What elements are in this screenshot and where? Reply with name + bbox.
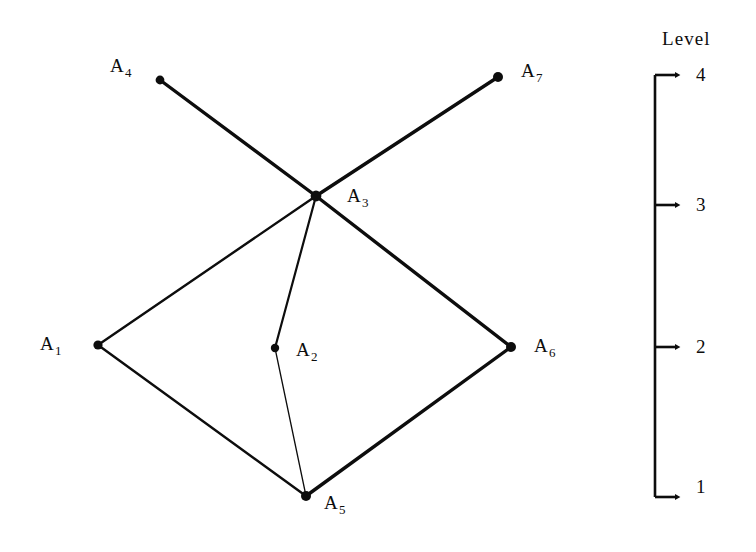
node-label-a4: A4 bbox=[110, 56, 131, 75]
graph-node-a4 bbox=[156, 76, 165, 85]
level-tick-label-2: 2 bbox=[696, 337, 706, 356]
graph-node-a5 bbox=[301, 491, 311, 501]
node-label-letter: A bbox=[40, 333, 54, 354]
node-label-index: 4 bbox=[125, 65, 132, 80]
node-label-index: 1 bbox=[55, 343, 62, 358]
node-layer bbox=[93, 72, 516, 501]
edge-layer bbox=[98, 77, 511, 496]
graph-node-a7 bbox=[493, 72, 503, 82]
graph-edge-a2-a5 bbox=[275, 348, 306, 496]
level-axis-tick-arrow-1 bbox=[675, 494, 680, 500]
node-label-letter: A bbox=[296, 339, 310, 360]
graph-edge-a6-a5 bbox=[306, 347, 511, 496]
level-tick-label-1: 1 bbox=[696, 477, 706, 496]
node-label-letter: A bbox=[347, 185, 361, 206]
node-label-index: 6 bbox=[549, 345, 556, 360]
node-label-index: 3 bbox=[362, 195, 369, 210]
node-label-letter: A bbox=[324, 492, 338, 513]
graph-node-a2 bbox=[271, 344, 279, 352]
node-label-a1: A1 bbox=[40, 334, 61, 353]
level-axis-spine bbox=[655, 72, 680, 500]
graph-edge-a1-a5 bbox=[98, 345, 306, 496]
node-label-index: 2 bbox=[311, 349, 318, 364]
graph-drawing bbox=[0, 0, 756, 552]
node-label-index: 5 bbox=[339, 502, 346, 517]
node-label-a3: A3 bbox=[347, 186, 368, 205]
graph-edge-a7-a3 bbox=[316, 77, 498, 196]
node-label-a7: A7 bbox=[521, 61, 542, 80]
graph-edge-a4-a3 bbox=[160, 80, 316, 196]
node-label-a6: A6 bbox=[534, 336, 555, 355]
figure-canvas: Level A1A2A3A4A5A6A7 4321 bbox=[0, 0, 756, 552]
node-label-a5: A5 bbox=[324, 493, 345, 512]
level-axis-tick-arrow-3 bbox=[675, 202, 680, 208]
level-tick-label-3: 3 bbox=[696, 195, 706, 214]
node-label-letter: A bbox=[521, 60, 535, 81]
node-label-a2: A2 bbox=[296, 340, 317, 359]
node-label-letter: A bbox=[110, 55, 124, 76]
graph-node-a1 bbox=[93, 340, 102, 349]
level-axis-title: Level bbox=[662, 29, 711, 48]
level-axis-tick-arrow-4 bbox=[675, 72, 680, 78]
graph-edge-a3-a6 bbox=[316, 196, 511, 347]
level-axis-tick-arrow-2 bbox=[675, 344, 680, 350]
level-tick-label-4: 4 bbox=[696, 65, 706, 84]
node-label-letter: A bbox=[534, 335, 548, 356]
graph-node-a6 bbox=[506, 342, 516, 352]
graph-edge-a3-a1 bbox=[98, 196, 316, 345]
node-label-index: 7 bbox=[536, 70, 543, 85]
graph-node-a3 bbox=[311, 191, 322, 202]
